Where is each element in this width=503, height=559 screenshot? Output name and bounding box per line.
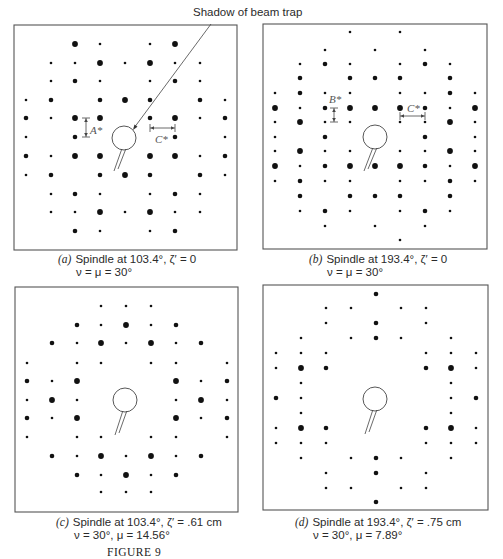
diffraction-spot [447, 148, 453, 154]
diffraction-spot [223, 154, 228, 159]
diffraction-spot [98, 98, 103, 103]
diffraction-spot [374, 471, 379, 476]
diffraction-spot [449, 165, 452, 168]
diffraction-spot [73, 79, 78, 84]
diffraction-spot [349, 150, 352, 153]
diffraction-spot [49, 173, 54, 178]
caption-a-line1: Spindle at 103.4°, ζ′ = 0 [75, 253, 196, 265]
diffraction-spot [275, 352, 278, 355]
diffraction-spot [225, 379, 230, 384]
diffraction-spot [73, 229, 78, 234]
diffraction-spot [173, 135, 178, 140]
diffraction-spot [373, 76, 378, 81]
diffraction-spot [97, 115, 103, 121]
diffraction-spot [299, 63, 302, 66]
diffraction-spot [399, 239, 402, 242]
caption-a-line2: ν = μ = 30° [58, 266, 196, 279]
diffraction-spot [372, 163, 378, 169]
diffraction-spot [274, 136, 277, 139]
diffraction-spot [300, 457, 303, 460]
diffraction-spot [373, 194, 378, 199]
panel-b: B*C* [263, 24, 487, 249]
diffraction-spot [449, 107, 452, 110]
diffraction-spot [74, 415, 80, 421]
diffraction-spot [299, 165, 302, 168]
diffraction-spot [324, 121, 327, 124]
diffraction-spot [450, 337, 453, 340]
diffraction-spot [348, 194, 353, 199]
diffraction-spot [349, 31, 352, 34]
diffraction-spot [297, 148, 303, 154]
diffraction-spot [175, 362, 178, 365]
diffraction-spot [323, 209, 328, 214]
diffraction-spot [325, 487, 328, 490]
diffraction-spot [398, 194, 403, 199]
diffraction-spot [325, 442, 328, 445]
diffraction-spot [26, 362, 29, 365]
diffraction-spot [350, 307, 353, 310]
diffraction-spot [25, 416, 30, 421]
diffraction-spot [474, 136, 477, 139]
diffraction-spot [474, 150, 477, 153]
diffraction-spot [172, 115, 178, 121]
diffraction-spot [98, 453, 104, 459]
diffraction-spot [226, 399, 229, 402]
diffraction-spot [424, 49, 427, 52]
diffraction-spot [424, 366, 429, 371]
diffraction-spot [174, 62, 177, 65]
diffraction-spot [50, 62, 53, 65]
diffraction-spot [24, 116, 29, 121]
diffraction-spot [72, 41, 78, 47]
diffraction-spot [325, 307, 328, 310]
diffraction-spot [100, 491, 103, 494]
diffraction-spot [175, 342, 178, 345]
diffraction-spot [399, 63, 402, 66]
diffraction-spot [124, 62, 127, 65]
diffraction-spot [323, 164, 328, 169]
diffraction-spot [226, 436, 229, 439]
diffraction-spot [26, 399, 29, 402]
diffraction-spot [372, 105, 378, 111]
diffraction-spot [474, 180, 477, 183]
diffraction-spot [122, 97, 128, 103]
caption-b-tag: (b) [309, 253, 322, 265]
diffraction-spot [97, 60, 103, 66]
diffraction-spot [349, 121, 352, 124]
diffraction-spot [51, 380, 54, 383]
diffraction-spot [175, 436, 178, 439]
diffraction-spot [449, 210, 452, 213]
diffraction-spot [150, 436, 153, 439]
diffraction-spot [348, 76, 353, 81]
diffraction-spot [125, 455, 128, 458]
diffraction-spot [350, 487, 353, 490]
caption-c-tag: (c) [56, 516, 69, 528]
diffraction-spot [472, 163, 478, 169]
diffraction-spot [398, 76, 403, 81]
diffraction-spot [74, 211, 77, 214]
diffraction-spot [399, 210, 402, 213]
diffraction-spot [98, 340, 104, 346]
diffraction-spot [198, 173, 203, 178]
diffraction-spot [172, 41, 178, 47]
caption-d-tag: (d) [295, 516, 308, 528]
diffraction-spot [400, 487, 403, 490]
diffraction-spot [425, 307, 428, 310]
diffraction-spot [324, 426, 329, 431]
diffraction-spot [399, 150, 402, 153]
measure-label: C* [407, 102, 420, 114]
diffraction-spot [297, 119, 303, 125]
diffraction-spot [448, 179, 453, 184]
shadow-of-beam-trap-label: Shadow of beam trap [193, 6, 302, 18]
diffraction-spot [98, 173, 103, 178]
diffraction-spot [149, 43, 152, 46]
diffraction-spot [76, 436, 79, 439]
diffraction-spot [300, 352, 303, 355]
diffraction-spot [147, 60, 153, 66]
diffraction-spot [75, 323, 80, 328]
diffraction-spot [99, 230, 102, 233]
figure-title: FIGURE 9 [107, 546, 161, 558]
diffraction-spot [275, 367, 278, 370]
diffraction-spot [74, 378, 80, 384]
diffraction-spot [123, 472, 129, 478]
diffraction-spot [324, 150, 327, 153]
